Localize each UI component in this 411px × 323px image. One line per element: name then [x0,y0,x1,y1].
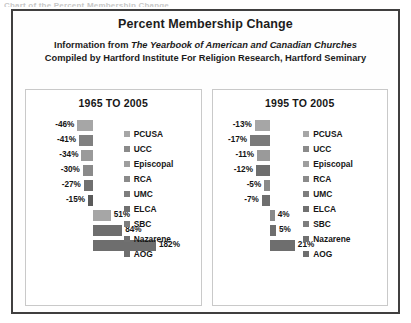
legend-swatch-icon [124,161,130,167]
legend-item-nazarene: Nazarene [124,231,174,246]
bar-episcopal [81,150,93,161]
bar-value-label: 4% [278,209,290,221]
legend-swatch-icon [124,221,130,227]
bar-value-label: -5% [247,179,262,191]
legend-swatch-icon [124,206,130,212]
legend-swatch-icon [124,176,130,182]
legend-item-rca: RCA [124,171,174,186]
bar-value-label: -27% [62,179,81,191]
legend-swatch-icon [303,161,309,167]
legend-label: ELCA [134,204,157,214]
legend-label: SBC [134,219,152,229]
bar-row: -13% [213,118,388,133]
bar-row: 4% [213,208,388,223]
legend-label: Nazarene [313,234,350,244]
bar-value-label: -30% [61,164,80,176]
bar-row: -12% [213,163,388,178]
bar-row: 5% [213,223,388,238]
legend-swatch-icon [303,236,309,242]
bar-row: -11% [213,148,388,163]
plot-area: -46%-41%-34%-30%-27%-15%51%84%182% [26,118,201,299]
chart-panel-1995-2005: 1995 TO 2005 -13%-17%-11%-12%-5%-7%4%5%2… [212,89,389,306]
legend-item-pcusa: PCUSA [124,126,174,141]
bar-value-label: -46% [55,119,74,131]
legend-label: Episcopal [313,159,353,169]
bar-value-label: -41% [57,134,76,146]
legend-swatch-icon [303,176,309,182]
legend-swatch-icon [124,251,130,257]
bar-row: 51% [26,208,201,223]
legend: PCUSAUCCEpiscopalRCAUMCELCASBCNazareneAO… [303,126,353,261]
legend-item-umc: UMC [124,186,174,201]
legend-label: UCC [134,144,152,154]
bar-pcusa [255,120,270,131]
chart-subtitle: Information from The Yearbook of America… [13,39,398,64]
legend-label: RCA [134,174,152,184]
legend-item-aog: AOG [124,246,174,261]
bar-value-label: -17% [228,134,247,146]
legend-label: UMC [134,189,153,199]
bar-elca [262,195,270,206]
legend-label: AOG [313,249,332,259]
bar-row: -34% [26,148,201,163]
legend-label: RCA [313,174,331,184]
panel-title: 1965 TO 2005 [26,97,201,109]
legend-item-episcopal: Episcopal [303,156,353,171]
bar-episcopal [257,150,270,161]
legend-label: PCUSA [313,129,342,139]
bar-nazarene [93,225,122,236]
bar-sbc [93,210,111,221]
bar-ucc [79,135,93,146]
bar-row: -46% [26,118,201,133]
bar-nazarene [270,225,276,236]
legend-label: ELCA [313,204,336,214]
legend-item-rca: RCA [303,171,353,186]
bar-row: -15% [26,193,201,208]
legend-item-ucc: UCC [124,141,174,156]
legend-swatch-icon [303,146,309,152]
legend-item-episcopal: Episcopal [124,156,174,171]
legend-item-sbc: SBC [124,216,174,231]
legend-item-ucc: UCC [303,141,353,156]
legend-item-aog: AOG [303,246,353,261]
bar-umc [84,180,93,191]
bar-elca [88,195,93,206]
bar-pcusa [77,120,93,131]
subtitle-source-title: The Yearbook of American and Canadian Ch… [131,40,357,50]
bar-value-label: -15% [66,194,85,206]
chart-panels: 1965 TO 2005 -46%-41%-34%-30%-27%-15%51%… [13,89,398,306]
legend-label: Nazarene [134,234,171,244]
panel-title: 1995 TO 2005 [213,97,388,109]
bar-row: -27% [26,178,201,193]
legend-label: UCC [313,144,331,154]
bar-value-label: -12% [234,164,253,176]
subtitle-line-1: Information from The Yearbook of America… [17,39,394,52]
bar-row: -17% [213,133,388,148]
bar-value-label: -11% [235,149,254,161]
bar-value-label: 5% [279,224,291,236]
legend-swatch-icon [124,146,130,152]
chart-frame: Percent Membership Change Information fr… [11,9,400,314]
legend-item-sbc: SBC [303,216,353,231]
legend-swatch-icon [124,131,130,137]
legend-label: PCUSA [134,129,163,139]
bar-row: 21% [213,238,388,253]
legend-swatch-icon [303,251,309,257]
bar-row: 84% [26,223,201,238]
bar-value-label: -34% [59,149,78,161]
legend-swatch-icon [303,221,309,227]
legend-label: AOG [134,249,153,259]
subtitle-source-prefix: Information from [54,40,131,50]
bar-row: -5% [213,178,388,193]
legend-swatch-icon [124,236,130,242]
bar-value-label: -7% [244,194,259,206]
legend-swatch-icon [303,131,309,137]
legend-swatch-icon [303,191,309,197]
legend-swatch-icon [124,191,130,197]
bar-value-label: -13% [233,119,252,131]
legend-swatch-icon [303,206,309,212]
bar-rca [256,165,270,176]
legend-item-pcusa: PCUSA [303,126,353,141]
bar-sbc [270,210,275,221]
legend-item-elca: ELCA [124,201,174,216]
